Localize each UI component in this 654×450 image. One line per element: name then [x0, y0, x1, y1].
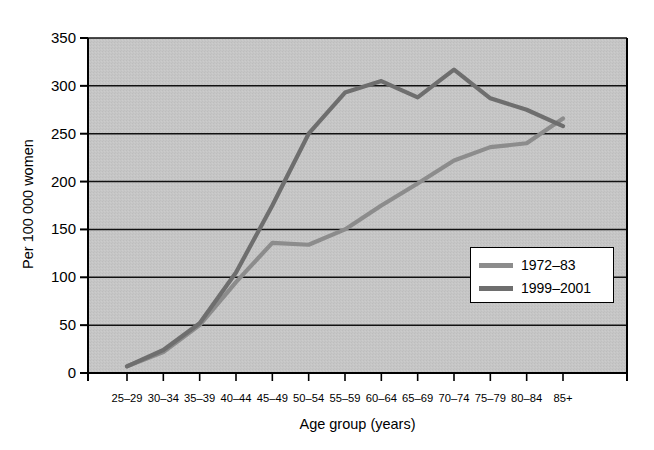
chart-figure: 050100150200250300350 25–2930–3435–3940–…: [0, 0, 654, 450]
legend-label: 1972–83: [521, 258, 576, 272]
x-tick-label: 25–29: [111, 393, 142, 404]
y-axis-title: Per 100 000 women: [20, 104, 36, 304]
legend-swatch: [479, 263, 513, 268]
x-tick-label: 85+: [554, 393, 573, 404]
x-tick-label: 40–44: [220, 393, 251, 404]
x-tick-label: 30–34: [148, 393, 179, 404]
x-tick-label: 50–54: [293, 393, 324, 404]
legend-item: 1972–83: [479, 253, 576, 277]
x-tick-label: 65–69: [402, 393, 433, 404]
chart-legend: 1972–831999–2001: [470, 247, 614, 303]
x-tick-label: 60–64: [366, 393, 397, 404]
x-tick-label: 70–74: [438, 393, 469, 404]
x-tick-label: 80–84: [511, 393, 542, 404]
y-tick-label: 300: [28, 78, 76, 93]
x-tick-label: 75–79: [475, 393, 506, 404]
legend-swatch: [479, 286, 513, 291]
legend-label: 1999–2001: [521, 281, 591, 295]
x-tick-label: 55–59: [329, 393, 360, 404]
x-tick-label: 35–39: [184, 393, 215, 404]
y-tick-label: 50: [28, 317, 76, 332]
y-tick-label: 350: [28, 30, 76, 45]
line-chart-canvas: [0, 0, 654, 450]
legend-item: 1999–2001: [479, 276, 591, 300]
x-axis-title: Age group (years): [88, 416, 627, 432]
y-tick-label: 0: [28, 365, 76, 380]
x-tick-label: 45–49: [257, 393, 288, 404]
